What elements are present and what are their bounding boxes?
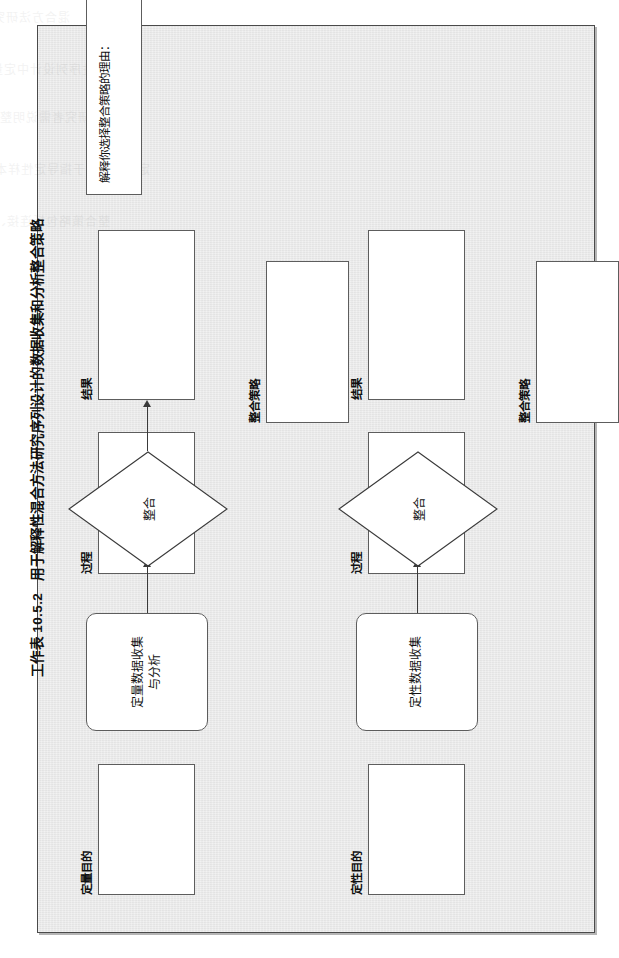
worksheet-number: 工作表 10.5.2	[30, 593, 45, 677]
label-quant-purpose: 定量目的	[78, 851, 94, 895]
integration-strategy-box-2[interactable]	[536, 261, 619, 423]
arrowhead-integration1-to-qual	[143, 400, 151, 407]
quant-data-collection-box[interactable]: 定量数据收集 与分析	[86, 613, 208, 731]
integration-diamond-1-label: 整合	[68, 451, 228, 567]
bleed-line: 混合方法研究的数据收集与分析整合设计	[0, 8, 70, 25]
worksheet-title-text: 用于解释性混合方法研究序列设计的数据收集和分析整合策略	[30, 219, 45, 581]
quant-results-box[interactable]	[98, 230, 195, 400]
label-qual-purpose: 定性目的	[348, 851, 364, 895]
label-integration-strategy-1: 整合策略	[246, 379, 262, 423]
qual-purpose-box[interactable]	[368, 764, 465, 895]
qual-results-box[interactable]	[368, 230, 465, 400]
label-integration-strategy-2: 整合策略	[516, 379, 532, 423]
connector-integration1-to-qual	[147, 405, 148, 451]
page-title: 工作表 10.5.2用于解释性混合方法研究序列设计的数据收集和分析整合策略	[26, 98, 46, 798]
connector-qual-to-integration2	[417, 565, 418, 613]
integration-diamond-2[interactable]: 整合	[338, 451, 498, 567]
qual-data-collection-box[interactable]: 定性数据收集	[356, 613, 478, 731]
integration-diamond-1[interactable]: 整合	[68, 451, 228, 567]
integration-strategy-box-1[interactable]	[266, 261, 349, 423]
integration-diamond-2-label: 整合	[338, 451, 498, 567]
rationale-note-box[interactable]: 解释你选择整合策略的理由：	[86, 0, 142, 195]
integration-strategy-flowchart: 定量目的 定量数据收集 与分析 过程 结果 整合 整合策略 定性目的 定性数据收…	[48, 39, 568, 919]
quant-purpose-box[interactable]	[98, 764, 195, 895]
quant-data-collection-label: 定量数据收集 与分析	[130, 636, 165, 708]
label-qual-results: 结果	[348, 378, 364, 400]
qual-data-collection-label: 定性数据收集	[408, 636, 425, 708]
rationale-prompt-label: 解释你选择整合策略的理由：	[99, 40, 111, 183]
label-quant-results: 结果	[78, 378, 94, 400]
connector-quant-to-integration1	[147, 565, 148, 613]
